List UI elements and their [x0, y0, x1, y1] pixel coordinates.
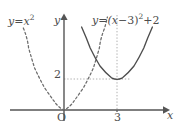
x-tick-label-3: 3	[114, 112, 121, 123]
curve-label-left-exponent: 2	[30, 13, 35, 22]
y-axis-label: y	[54, 15, 60, 26]
curve-label-right-suffix: +2	[143, 14, 159, 27]
origin-label: O	[57, 112, 66, 123]
curve-label-right-mid: 3)	[127, 14, 138, 27]
curve-label-left-base: y=x	[8, 15, 30, 28]
curve-y-equals-x-squared	[23, 17, 107, 110]
curve-label-right-minus: −	[118, 14, 127, 27]
y-axis-arrow-icon	[60, 14, 67, 21]
curve-label-y-equals-x-squared: y=x2	[8, 14, 34, 27]
y-tick-label-2: 2	[54, 69, 61, 80]
x-axis-label: x	[167, 110, 173, 121]
curve-label-right-prefix: y=(x	[92, 14, 118, 27]
parabola-translation-figure: y=x2 y=(x−3)2+2 x y O 3 2	[0, 0, 177, 133]
curve-label-y-equals-shifted-parabola: y=(x−3)2+2	[92, 13, 159, 26]
